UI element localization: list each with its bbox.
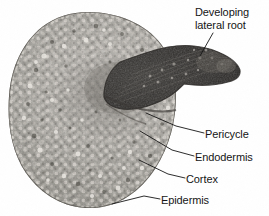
- label-developing-lateral-root-line1: Developing: [195, 6, 249, 18]
- label-pericycle: Pericycle: [205, 128, 249, 140]
- label-cortex: Cortex: [186, 173, 218, 185]
- leader-developing-lateral-root: [200, 33, 213, 56]
- label-epidermis: Epidermis: [161, 194, 209, 206]
- annotation-leader-lines: [0, 0, 269, 216]
- leader-cortex: [139, 160, 185, 178]
- leader-epidermis: [112, 196, 160, 204]
- label-developing-lateral-root-line2: lateral root: [195, 19, 246, 31]
- leader-pericycle: [146, 113, 204, 133]
- leader-endodermis: [140, 131, 194, 156]
- label-developing-lateral-root: Developinglateral root: [195, 6, 249, 31]
- figure-root-cross-section: Developinglateral root Pericycle Endoder…: [0, 0, 269, 216]
- label-endodermis: Endodermis: [195, 151, 253, 163]
